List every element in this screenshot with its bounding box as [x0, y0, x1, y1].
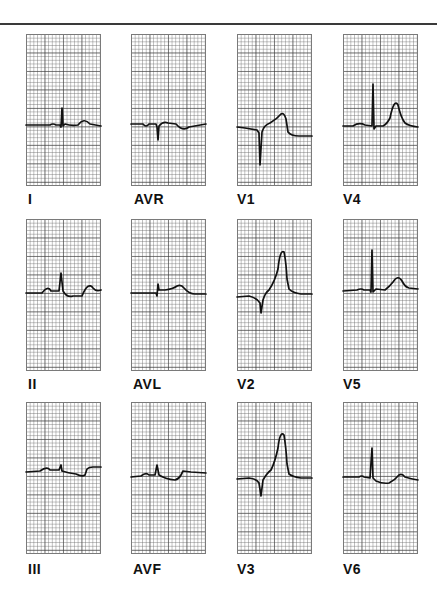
ecg-panel-lead-iii [26, 402, 101, 554]
ecg-trace-lead-v2 [237, 219, 312, 371]
ecg-trace-lead-v4 [343, 34, 418, 186]
ecg-trace-lead-v1 [237, 34, 312, 186]
ecg-panel-lead-v1 [237, 34, 312, 186]
ecg-panel-lead-v5 [343, 219, 418, 371]
lead-label: II [28, 376, 37, 392]
ecg-trace-lead-v5 [343, 219, 418, 371]
ecg-trace-lead-i [26, 34, 101, 186]
ecg-trace-lead-avl [131, 219, 206, 371]
ecg-panel-lead-v3 [237, 402, 312, 554]
lead-label: V4 [343, 191, 361, 207]
lead-label: V3 [237, 561, 255, 577]
ecg-panel-lead-ii [26, 219, 101, 371]
lead-label: V5 [343, 376, 361, 392]
lead-label: V1 [237, 191, 255, 207]
lead-label: V6 [343, 561, 361, 577]
lead-label: AVL [133, 376, 161, 392]
ecg-panel-lead-avr [131, 34, 206, 186]
ecg-panel-lead-avf [131, 402, 206, 554]
ecg-panel-lead-v6 [343, 402, 418, 554]
ecg-trace-lead-avr [131, 34, 206, 186]
ecg-trace-lead-iii [26, 402, 101, 554]
ecg-panel-lead-v4 [343, 34, 418, 186]
lead-label: III [28, 561, 41, 577]
ecg-trace-lead-avf [131, 402, 206, 554]
ecg-trace-lead-v6 [343, 402, 418, 554]
ecg-panel-lead-v2 [237, 219, 312, 371]
lead-label: V2 [237, 376, 255, 392]
lead-label: AVR [134, 191, 164, 207]
ecg-trace-lead-v3 [237, 402, 312, 554]
ecg-panel-lead-i [26, 34, 101, 186]
top-rule [0, 23, 437, 25]
lead-label: I [28, 191, 32, 207]
lead-label: AVF [133, 561, 161, 577]
ecg-trace-lead-ii [26, 219, 101, 371]
ecg-panel-lead-avl [131, 219, 206, 371]
